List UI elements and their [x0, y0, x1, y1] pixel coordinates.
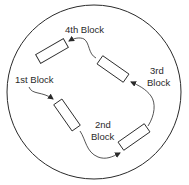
block-3-rect [97, 56, 129, 83]
block-sequence-diagram: 4th Block 3rd Block 1st Block 2nd Block [0, 0, 189, 185]
block-2-label-line1: 2nd [95, 119, 111, 130]
block-4-label: 4th Block [65, 24, 104, 35]
arrow-block2-to-block3 [131, 82, 154, 126]
block-4-rect [36, 39, 69, 64]
arrow-label1-to-block1 [29, 87, 53, 99]
block-1-rect [54, 99, 81, 131]
arrow-block3-to-block4 [69, 38, 96, 58]
block-2-label-line2: Block [91, 131, 114, 142]
block-1-label: 1st Block [15, 74, 54, 85]
block-3-label-line1: 3rd [150, 65, 164, 76]
block-2-rect [118, 124, 150, 151]
block-3-label-line2: Block [147, 77, 170, 88]
